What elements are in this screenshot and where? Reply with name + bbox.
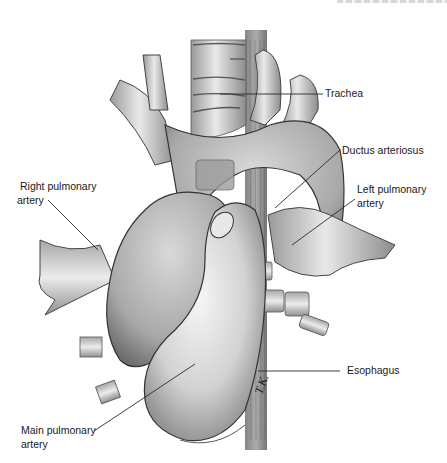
anatomy-illustration: T.K. bbox=[0, 0, 447, 463]
label-esophagus: Esophagus bbox=[347, 364, 400, 377]
label-left-pulmonary-artery-line2: artery bbox=[357, 197, 384, 210]
label-trachea: Trachea bbox=[325, 87, 363, 100]
label-right-pulmonary-artery-line2: artery bbox=[17, 194, 44, 207]
label-ductus-arteriosus: Ductus arteriosus bbox=[342, 144, 424, 157]
label-left-pulmonary-artery-line1: Left pulmonary bbox=[357, 183, 426, 196]
label-main-pulmonary-artery-line1: Main pulmonary bbox=[21, 424, 96, 437]
label-main-pulmonary-artery-line2: artery bbox=[21, 438, 48, 451]
leader-line-right-pulmonary-artery bbox=[48, 200, 98, 250]
right-pulmonary-artery-shape bbox=[39, 240, 115, 315]
label-right-pulmonary-artery-line1: Right pulmonary bbox=[20, 180, 96, 193]
trachea-shape bbox=[191, 40, 246, 138]
left-pulmonary-artery-shape bbox=[252, 208, 395, 337]
